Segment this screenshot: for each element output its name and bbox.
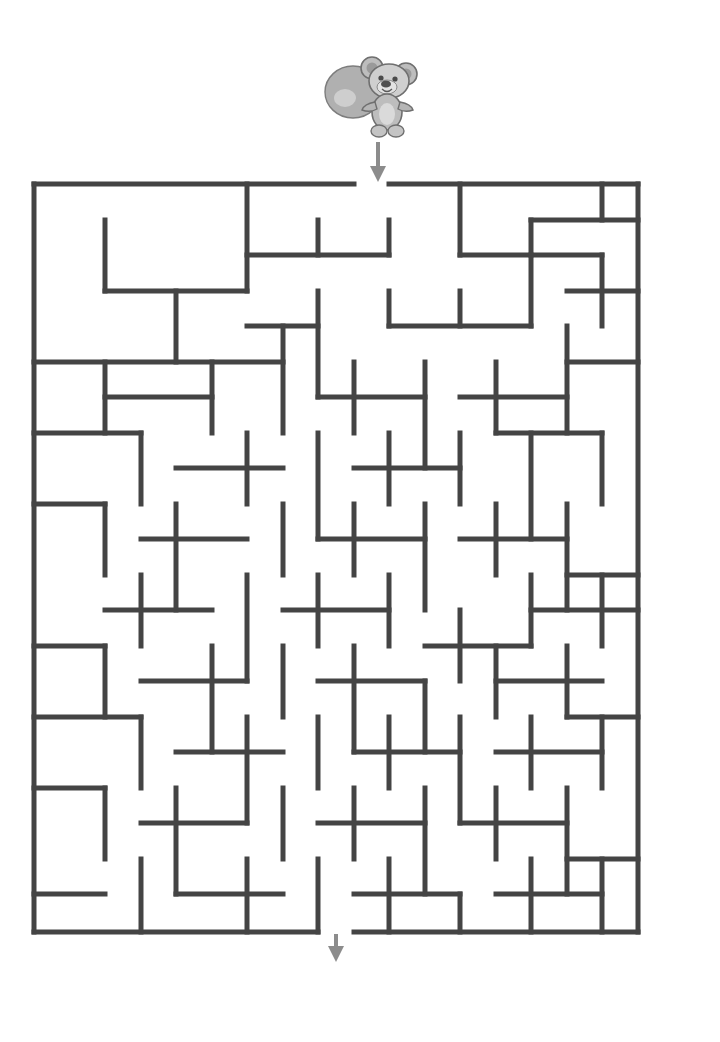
maze-figure bbox=[0, 0, 720, 1042]
maze-walls-group bbox=[34, 184, 638, 932]
exit-arrow-down bbox=[328, 934, 344, 962]
worksheet-page bbox=[0, 0, 720, 1042]
entrance-arrow-down bbox=[370, 142, 386, 182]
